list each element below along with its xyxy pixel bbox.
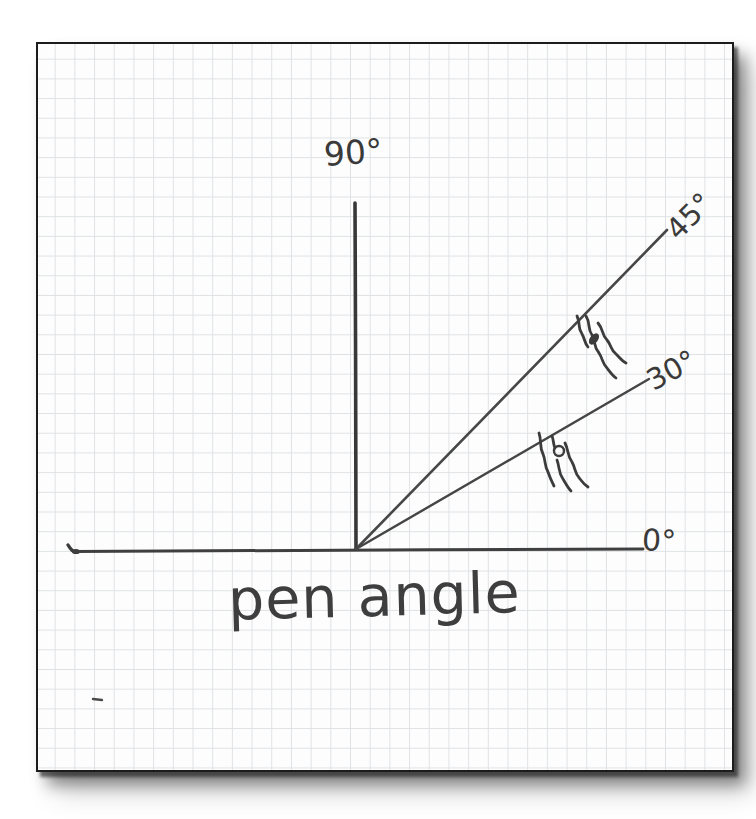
diagram-title: pen angle [227,564,521,629]
label-0-degrees: 0° [641,525,677,557]
pen-nib-sketch-30 [539,433,588,491]
graph-paper-sheet: 90° 45° 30° 0° pen angle [36,42,734,772]
pen-angle-diagram [38,44,736,774]
horizontal-axis-line [74,549,643,552]
ray-30-line [356,379,649,549]
label-90-degrees: 90° [323,134,384,171]
pen-nib-sketch-45 [577,316,626,378]
stray-pencil-mark [93,699,102,700]
vertical-axis-line [355,203,356,549]
screenshot-stage: 90° 45° 30° 0° pen angle [0,0,756,819]
ray-45-line [356,230,667,549]
